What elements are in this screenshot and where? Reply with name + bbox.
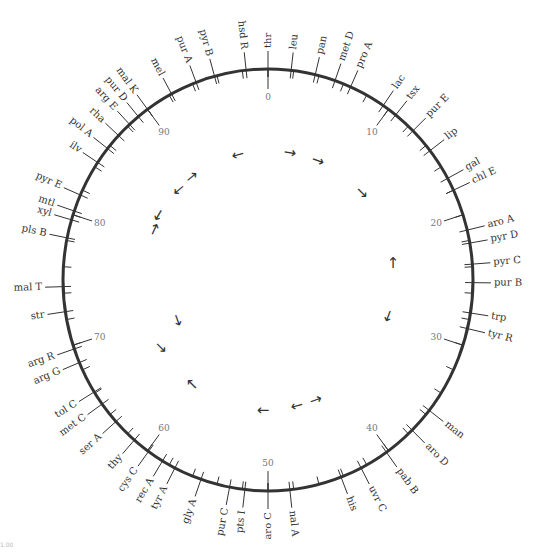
gene-tick — [463, 312, 489, 316]
gene-tick — [244, 52, 247, 78]
gene-tick — [210, 59, 217, 84]
minor-tick — [363, 95, 367, 102]
gene-tick — [57, 205, 82, 213]
gene-tick — [464, 263, 490, 265]
minor-tick — [169, 458, 173, 465]
scale-labels: 0102030405060708090 — [73, 69, 463, 491]
gene-label: lip — [443, 125, 460, 142]
direction-arrow-icon: → — [282, 143, 298, 163]
scale-tick — [73, 215, 92, 221]
direction-arrow-icon: ← — [229, 144, 246, 165]
gene-label: pyr C — [493, 254, 522, 267]
minor-tick — [403, 126, 408, 132]
minor-tick — [446, 366, 453, 369]
minor-tick — [63, 293, 71, 294]
direction-arrow-icon: ↘ — [155, 338, 168, 356]
minor-tick — [434, 389, 441, 393]
minor-tick — [420, 146, 426, 151]
gene-label: pur A — [175, 34, 195, 65]
direction-arrow-icon: → — [307, 389, 325, 410]
minor-tick — [465, 293, 473, 294]
gene-label: pur B — [494, 276, 522, 287]
gene-label: pyr D — [489, 228, 519, 244]
gene-label: pan — [314, 34, 329, 55]
gene-label: pol A — [68, 114, 96, 139]
minor-tick — [193, 84, 196, 91]
gene-tick — [462, 240, 488, 245]
minor-tick — [465, 267, 473, 268]
scale-tick — [444, 215, 463, 221]
gene-tick — [195, 472, 203, 497]
minor-tick — [403, 428, 408, 434]
minor-tick — [110, 409, 116, 414]
scale-tick — [377, 435, 389, 451]
gene-tick — [49, 234, 74, 239]
gene-label: aro C — [262, 512, 273, 540]
gene-label: rha — [88, 105, 108, 125]
direction-arrow-icon: ← — [257, 401, 270, 419]
gene-label: man — [443, 418, 467, 441]
gene-tick — [226, 479, 231, 505]
scale-label: 60 — [158, 423, 170, 433]
genetic-map: 0102030405060708090 thrleupanmet Dpro Al… — [0, 0, 535, 554]
gene-tick — [190, 66, 199, 90]
direction-arrow-icon: ← — [168, 179, 189, 201]
gene-label: pur C — [214, 506, 230, 536]
direction-arrow-icon: → — [309, 150, 327, 171]
scale-label: 80 — [94, 218, 106, 228]
gene-label: str — [30, 308, 46, 321]
minor-tick — [128, 428, 133, 434]
gene-label: ser A — [77, 430, 104, 456]
gene-label: pab B — [395, 466, 421, 496]
gene-label: gal — [463, 155, 482, 172]
gene-label: lac — [390, 72, 408, 91]
direction-arrow-icon: ← — [288, 395, 305, 416]
gene-label: leu — [287, 33, 300, 50]
gene-label: his — [344, 494, 360, 512]
gene-label: nal A — [288, 510, 302, 538]
gene-tick — [289, 482, 292, 508]
gene-tick — [45, 286, 71, 287]
minor-tick — [193, 469, 196, 476]
direction-arrow-icon: ↓ — [379, 306, 397, 327]
scale-label: 20 — [431, 218, 443, 228]
gene-label: pur E — [423, 91, 451, 119]
gene-label: aro A — [486, 212, 516, 229]
scale-label: 40 — [366, 423, 378, 433]
scale-tick — [148, 435, 160, 451]
gene-label: trp — [491, 310, 508, 323]
minor-tick — [341, 469, 344, 476]
direction-arrow-icon: ↓ — [169, 310, 187, 331]
minor-tick — [95, 167, 102, 171]
scale-label: 10 — [366, 127, 378, 137]
gene-tick — [57, 346, 82, 354]
gene-label: pyr B — [198, 28, 216, 57]
scale-label: 50 — [262, 458, 274, 468]
gene-label: gly A — [180, 496, 199, 525]
gene-label: ilv — [68, 139, 84, 155]
gene-label: tyr R — [487, 327, 514, 344]
direction-arrow-icon: → — [352, 182, 374, 204]
scale-label: 90 — [158, 127, 170, 137]
gene-label: thr — [262, 33, 273, 48]
footer-note: 1.00 — [0, 541, 13, 548]
gene-label: met D — [336, 30, 356, 63]
gene-label: aro D — [424, 441, 451, 469]
gene-label: pts I — [233, 510, 246, 534]
minor-tick — [363, 458, 367, 465]
minor-tick — [63, 267, 71, 268]
gene-tick — [48, 310, 74, 314]
direction-arrow-icon: ↑ — [145, 219, 164, 241]
gene-label: hsd R — [236, 20, 250, 50]
gene-label: pyr E — [34, 170, 63, 191]
minor-tick — [110, 146, 116, 151]
scale-tick — [444, 339, 463, 345]
gene-label: pro A — [353, 39, 375, 69]
gene-label: pls B — [21, 222, 48, 238]
direction-arrow-icon: ↖ — [186, 375, 199, 393]
direction-arrow-icon: ↑ — [387, 254, 400, 272]
scale-label: 30 — [431, 332, 443, 342]
gene-label: cys C — [115, 464, 140, 493]
scale-label: 70 — [94, 332, 106, 342]
gene-label: arg G — [31, 365, 61, 386]
